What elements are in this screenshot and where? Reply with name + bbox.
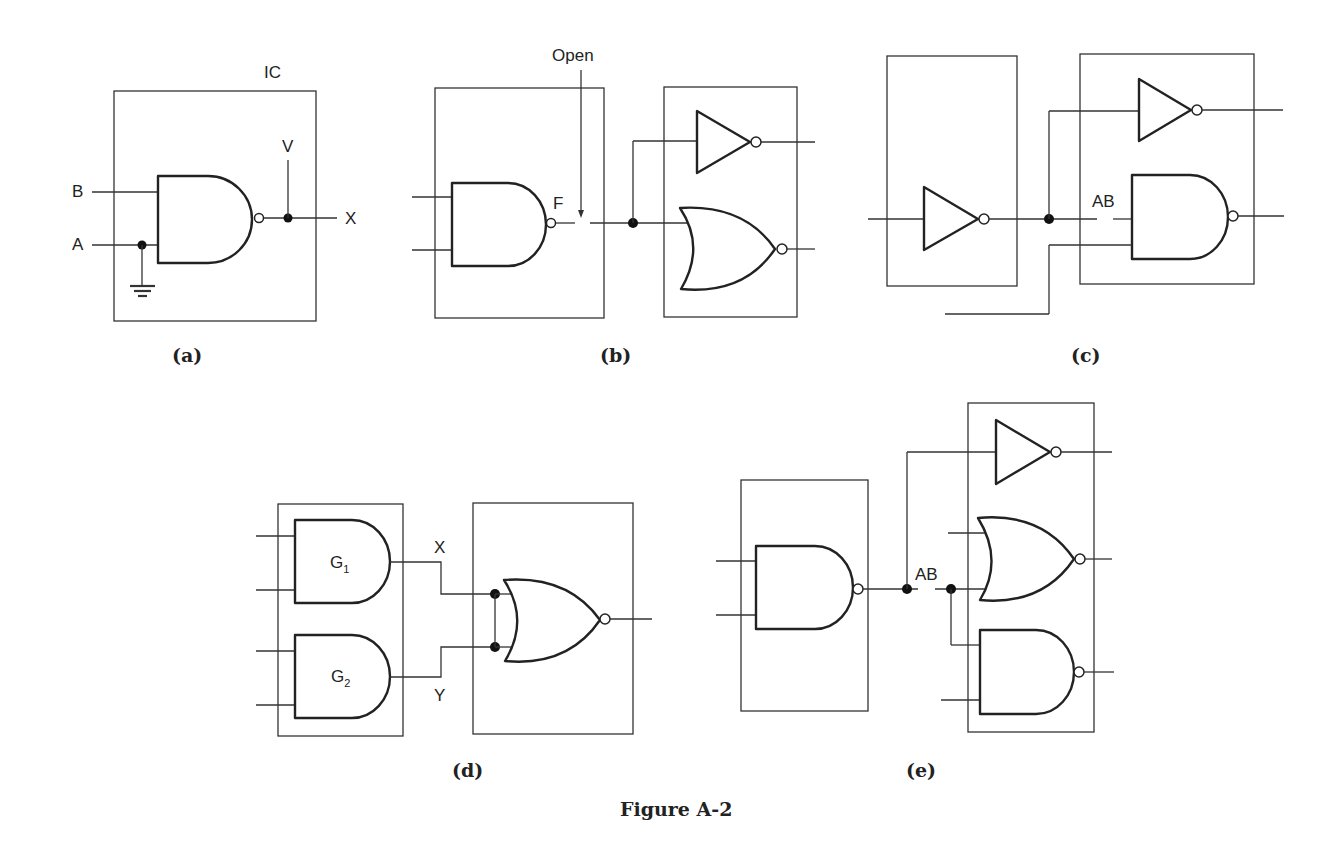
inversion-bubble [1074, 667, 1084, 677]
nand-gate [980, 630, 1074, 714]
nand-gate [1132, 175, 1228, 259]
panel-e: AB (e) [716, 403, 1114, 781]
ic-package-left [887, 56, 1017, 286]
panel-d-label: (d) [452, 759, 483, 781]
open-label: Open [552, 46, 594, 65]
inverter-gate [1139, 79, 1191, 141]
input-b-label: B [72, 182, 83, 201]
panel-a: IC B A V X (a) [72, 63, 356, 366]
input-a-label: A [72, 235, 84, 254]
inversion-bubble [1051, 447, 1061, 457]
nand-gate [158, 176, 252, 263]
arrow-down-icon [578, 210, 584, 218]
inversion-bubble [547, 219, 556, 228]
panel-a-label: (a) [172, 344, 202, 366]
nor-gate [680, 208, 775, 290]
nand-gate [452, 183, 546, 266]
inversion-bubble [255, 214, 264, 223]
output-y-label: Y [434, 686, 445, 705]
inversion-bubble [600, 614, 610, 624]
supply-label: V [282, 137, 294, 156]
panel-b-label: (b) [600, 344, 631, 366]
ground-icon [130, 286, 155, 296]
inversion-bubble [979, 214, 989, 224]
figure-caption: Figure A-2 [620, 798, 732, 820]
inverter-gate [697, 111, 750, 173]
inverter-gate [996, 420, 1050, 484]
inversion-bubble [751, 137, 761, 147]
ic-label: IC [264, 63, 281, 82]
panel-c-label: (c) [1071, 344, 1101, 366]
panel-d: G1 G2 X Y (d) [256, 503, 652, 781]
inversion-bubble [777, 244, 787, 254]
inversion-bubble [1192, 105, 1202, 115]
node-f-label: F [553, 194, 563, 213]
inversion-bubble [853, 584, 863, 594]
output-x-label: X [434, 538, 445, 557]
panel-e-label: (e) [906, 759, 936, 781]
output-x-label: X [345, 209, 356, 228]
inverter-gate [924, 187, 978, 250]
figure-a-2: IC B A V X (a) Open F [0, 0, 1339, 850]
node-ab-label: AB [915, 565, 938, 584]
inversion-bubble [1075, 554, 1085, 564]
output-y-wire [390, 647, 495, 677]
nor-gate [504, 580, 600, 662]
nand-gate [756, 546, 853, 629]
node-ab-label: AB [1092, 192, 1115, 211]
output-x-wire [390, 562, 495, 594]
panel-b: Open F (b) [412, 46, 815, 366]
panel-c: AB (c) [868, 54, 1284, 366]
inversion-bubble [1228, 211, 1238, 221]
nor-gate [978, 517, 1074, 600]
